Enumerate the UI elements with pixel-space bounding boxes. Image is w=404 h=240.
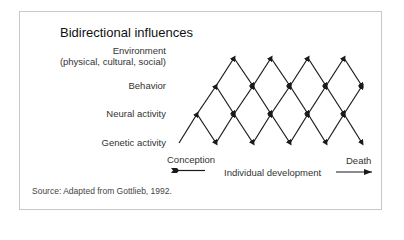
timeline-end-label: Death — [346, 155, 371, 166]
timeline-middle-label: Individual development — [224, 167, 321, 178]
lattice-lines — [179, 58, 362, 143]
timeline-start-arrow — [171, 168, 205, 173]
timeline-start-label: Conception — [167, 154, 215, 165]
source-caption: Source: Adapted from Gottlieb, 1992. — [32, 186, 172, 196]
